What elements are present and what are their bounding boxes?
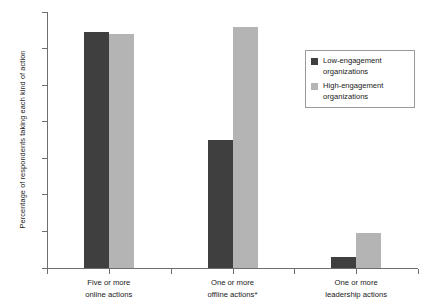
x-axis-category-line: One or more (173, 277, 293, 289)
x-axis-category-line: leadership actions (296, 289, 416, 301)
legend-swatch-icon-low (311, 58, 318, 65)
x-axis-category-line: One or more (296, 277, 416, 289)
x-axis-category-label: One or moreoffline actions* (173, 277, 293, 300)
bar[interactable] (233, 27, 258, 268)
x-axis-category-line: online actions (49, 289, 169, 301)
bar[interactable] (208, 140, 233, 268)
x-axis-category-line: Five or more (49, 277, 169, 289)
x-tick-mark (109, 269, 110, 274)
legend-item-low-engagement[interactable]: Low-engagement organizations (311, 56, 408, 77)
bar[interactable] (109, 34, 134, 268)
x-tick-mark (233, 269, 234, 274)
bar[interactable] (356, 233, 381, 268)
x-tick-mark (356, 269, 357, 274)
x-axis-category-label: One or moreleadership actions (296, 277, 416, 300)
bar-group (208, 12, 258, 268)
bar[interactable] (84, 32, 109, 268)
x-axis-category-line: offline actions* (173, 289, 293, 301)
bar-group (84, 12, 134, 268)
legend: Low-engagement organizations High-engage… (305, 50, 415, 108)
legend-label-high: High-engagement organizations (323, 81, 383, 102)
x-tick-mark (171, 269, 172, 274)
bar[interactable] (331, 257, 356, 268)
x-tick-mark (294, 269, 295, 274)
x-tick-mark (47, 269, 48, 274)
x-tick-mark (418, 269, 419, 274)
bars-layer (0, 0, 429, 268)
x-axis-category-label: Five or moreonline actions (49, 277, 169, 300)
legend-swatch-icon-high (311, 83, 318, 90)
bar-chart: Percentage of respondents taking each ki… (0, 0, 429, 305)
legend-item-high-engagement[interactable]: High-engagement organizations (311, 81, 408, 102)
legend-label-low: Low-engagement organizations (323, 56, 382, 77)
